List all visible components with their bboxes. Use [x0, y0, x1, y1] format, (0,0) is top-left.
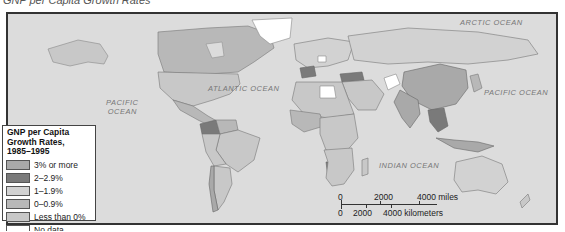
scale-miles-2000: 2000	[374, 192, 393, 202]
legend-item-less-than-0: Less than 0%	[6, 211, 92, 224]
region-australia	[454, 156, 508, 194]
legend-swatch	[6, 225, 30, 231]
legend-label: 1–1.9%	[34, 186, 63, 196]
legend-label: 3% or more	[34, 160, 78, 170]
scale-km-4000: 4000 kilometers	[383, 208, 443, 218]
region-europe	[294, 38, 354, 68]
region-afghanistan	[384, 74, 400, 90]
scale-line	[341, 204, 437, 205]
region-iberia	[300, 66, 316, 78]
page-title: GNP per Capita Growth Rates	[3, 0, 151, 6]
legend-item-2-to-2-9: 2–2.9%	[6, 172, 92, 185]
ocean-label-pacific-west-line1: PACIFIC	[106, 98, 139, 107]
legend-label: No data	[34, 225, 64, 231]
region-southeast-asia	[428, 108, 448, 132]
ocean-label-pacific-west-line2: OCEAN	[106, 107, 139, 116]
region-indonesia	[436, 138, 494, 152]
legend-swatch	[6, 186, 30, 196]
legend-swatch	[6, 199, 30, 209]
scale-km-2000: 2000	[353, 208, 372, 218]
scale-bar: 0 2000 4000 miles 0 2000 4000 kilometers	[338, 194, 488, 228]
region-no-data-europe	[318, 56, 326, 62]
legend-item-0-to-0-9: 0–0.9%	[6, 198, 92, 211]
scale-tick	[380, 201, 381, 205]
region-alaska	[48, 40, 108, 66]
legend-swatch	[6, 160, 30, 170]
legend-title-line3: 1985–1995	[7, 147, 92, 157]
ocean-label-indian: INDIAN OCEAN	[379, 161, 439, 170]
region-new-zealand	[520, 194, 530, 208]
legend-label: 0–0.9%	[34, 199, 63, 209]
ocean-label-pacific-east: PACIFIC OCEAN	[484, 88, 548, 97]
scale-miles-4000: 4000 miles	[417, 192, 458, 202]
scale-km-0: 0	[338, 208, 343, 218]
region-brazil	[216, 130, 260, 172]
scale-tick	[419, 201, 420, 205]
legend-item-3-or-more: 3% or more	[6, 159, 92, 172]
legend-item-1-to-1-9: 1–1.9%	[6, 185, 92, 198]
region-russia	[348, 28, 538, 64]
region-madagascar	[362, 158, 368, 176]
legend-label: 2–2.9%	[34, 173, 63, 183]
region-libya	[320, 86, 336, 98]
region-japan-korea	[470, 74, 482, 92]
ocean-label-atlantic: ATLANTIC OCEAN	[208, 84, 279, 93]
region-southern-africa	[324, 148, 354, 186]
ocean-label-pacific-west: PACIFIC OCEAN	[106, 98, 139, 116]
legend-item-no-data: No data	[6, 224, 92, 232]
legend-label: Less than 0%	[34, 212, 86, 222]
legend-title: GNP per Capita Growth Rates, 1985–1995	[7, 128, 92, 157]
legend-swatch	[6, 212, 30, 222]
map-legend: GNP per Capita Growth Rates, 1985–1995 3…	[2, 125, 96, 221]
ocean-label-arctic: ARCTIC OCEAN	[460, 18, 523, 27]
legend-swatch	[6, 173, 30, 183]
